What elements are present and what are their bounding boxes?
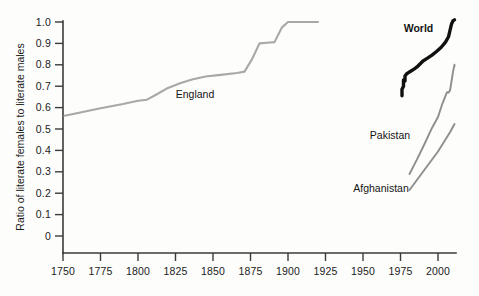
x-tick-label: 1750 <box>51 265 75 277</box>
y-tick-label: 0.9 <box>36 37 51 49</box>
y-axis-group: 00.10.20.30.40.50.60.70.80.91.0 Ratio of… <box>14 16 63 253</box>
x-tick-label: 1800 <box>126 265 150 277</box>
x-axis-tick-labels: 1750177518001825185018751900192519501975… <box>51 265 450 277</box>
y-axis-tick-labels: 00.10.20.30.40.50.60.70.80.91.0 <box>36 16 51 242</box>
x-tick-label: 1900 <box>276 265 300 277</box>
series-plot-area <box>65 20 455 190</box>
y-tick-label: 0.2 <box>36 187 51 199</box>
y-tick-label: 0.4 <box>36 144 51 156</box>
y-axis-tick-marks <box>55 22 63 236</box>
series-line-england <box>65 22 319 116</box>
x-tick-label: 1975 <box>388 265 412 277</box>
literacy-ratio-line-chart: 00.10.20.30.40.50.60.70.80.91.0 Ratio of… <box>0 0 479 296</box>
y-tick-label: 0.6 <box>36 101 51 113</box>
y-tick-label: 0.8 <box>36 58 51 70</box>
x-tick-label: 1775 <box>88 265 112 277</box>
x-axis-tick-marks <box>63 253 438 261</box>
series-label-world: World <box>404 22 434 34</box>
x-tick-label: 1825 <box>163 265 187 277</box>
y-tick-label: 0.3 <box>36 165 51 177</box>
x-tick-label: 1850 <box>201 265 225 277</box>
y-tick-label: 0.5 <box>36 123 51 135</box>
y-axis-title: Ratio of literate females to literate ma… <box>14 43 26 230</box>
series-label-pakistan: Pakistan <box>370 129 410 141</box>
series-inline-labels: EnglandWorldPakistanAfghanistan <box>176 22 434 195</box>
x-tick-label: 1875 <box>238 265 262 277</box>
x-tick-label: 2000 <box>426 265 450 277</box>
series-label-afghanistan: Afghanistan <box>353 182 409 194</box>
series-line-afghanistan <box>410 124 455 190</box>
x-tick-label: 1925 <box>313 265 337 277</box>
y-tick-label: 0.1 <box>36 208 51 220</box>
series-line-pakistan <box>410 65 455 174</box>
y-tick-label: 1.0 <box>36 16 51 28</box>
y-tick-label: 0.7 <box>36 80 51 92</box>
x-tick-label: 1950 <box>351 265 375 277</box>
series-label-england: England <box>176 88 215 100</box>
y-tick-label: 0 <box>45 230 51 242</box>
x-axis-group: 1750177518001825185018751900192519501975… <box>51 253 456 277</box>
